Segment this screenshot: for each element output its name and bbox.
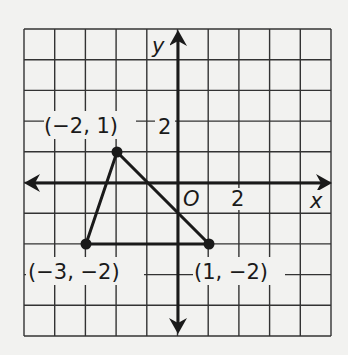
coordinate-plane: y x O 2 2 (−2, 1) (−3, −2) (1, −2) <box>0 0 348 355</box>
y-tick-label: 2 <box>158 115 171 139</box>
vertex-c-label: (1, −2) <box>194 260 268 284</box>
y-axis-label: y <box>151 34 165 58</box>
vertex-b-label: (−3, −2) <box>28 260 120 284</box>
vertex-a-label: (−2, 1) <box>44 114 118 138</box>
origin-label: O <box>183 187 200 211</box>
x-axis-label: x <box>309 189 323 213</box>
vertex-c <box>204 239 215 250</box>
vertex-b <box>81 239 92 250</box>
x-tick-label: 2 <box>231 187 244 211</box>
vertex-a <box>112 147 123 158</box>
